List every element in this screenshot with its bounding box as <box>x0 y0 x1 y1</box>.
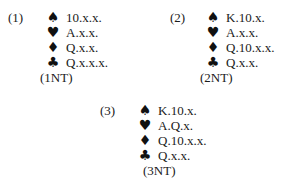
suit-row-clubs: ♣Q.x.x. <box>138 148 190 163</box>
suit-row-spades: ♠10.x.x. <box>46 10 102 25</box>
holding: K.10.x. <box>226 10 265 25</box>
holding: Q.10.x.x. <box>158 133 206 148</box>
suit-row-diamonds: ♦Q.10.x.x. <box>206 40 274 55</box>
holding: A.x.x. <box>66 25 98 40</box>
heart-icon: ♥ <box>138 118 152 133</box>
hand-label: (1) <box>8 10 23 25</box>
holding: Q.x.x. <box>158 148 190 163</box>
holding: 10.x.x. <box>66 10 102 25</box>
suit-row-clubs: ♣Q.x.x.x. <box>46 55 108 70</box>
holding: K.10.x. <box>158 103 197 118</box>
suit-row-diamonds: ♦Q.x.x. <box>46 40 98 55</box>
club-icon: ♣ <box>138 148 152 163</box>
suit-row-hearts: ♥A.Q.x. <box>138 118 193 133</box>
suit-row-clubs: ♣Q.x.x. <box>206 55 258 70</box>
spade-icon: ♠ <box>46 10 60 25</box>
suit-row-hearts: ♥A.x.x. <box>206 25 258 40</box>
diamond-icon: ♦ <box>46 40 60 55</box>
hand-label: (2) <box>170 10 185 25</box>
contract: (3NT) <box>143 163 176 178</box>
contract: (1NT) <box>40 70 73 85</box>
diamond-icon: ♦ <box>206 40 220 55</box>
holding: Q.x.x.x. <box>66 55 108 70</box>
contract: (2NT) <box>200 70 233 85</box>
holding: Q.x.x. <box>226 55 258 70</box>
club-icon: ♣ <box>206 55 220 70</box>
holding: A.x.x. <box>226 25 258 40</box>
spade-icon: ♠ <box>206 10 220 25</box>
heart-icon: ♥ <box>206 25 220 40</box>
spade-icon: ♠ <box>138 103 152 118</box>
holding: A.Q.x. <box>158 118 193 133</box>
heart-icon: ♥ <box>46 25 60 40</box>
diamond-icon: ♦ <box>138 133 152 148</box>
holding: Q.x.x. <box>66 40 98 55</box>
suit-row-diamonds: ♦Q.10.x.x. <box>138 133 206 148</box>
suit-row-hearts: ♥A.x.x. <box>46 25 98 40</box>
hand-label: (3) <box>100 103 115 118</box>
club-icon: ♣ <box>46 55 60 70</box>
suit-row-spades: ♠K.10.x. <box>138 103 197 118</box>
holding: Q.10.x.x. <box>226 40 274 55</box>
suit-row-spades: ♠K.10.x. <box>206 10 265 25</box>
